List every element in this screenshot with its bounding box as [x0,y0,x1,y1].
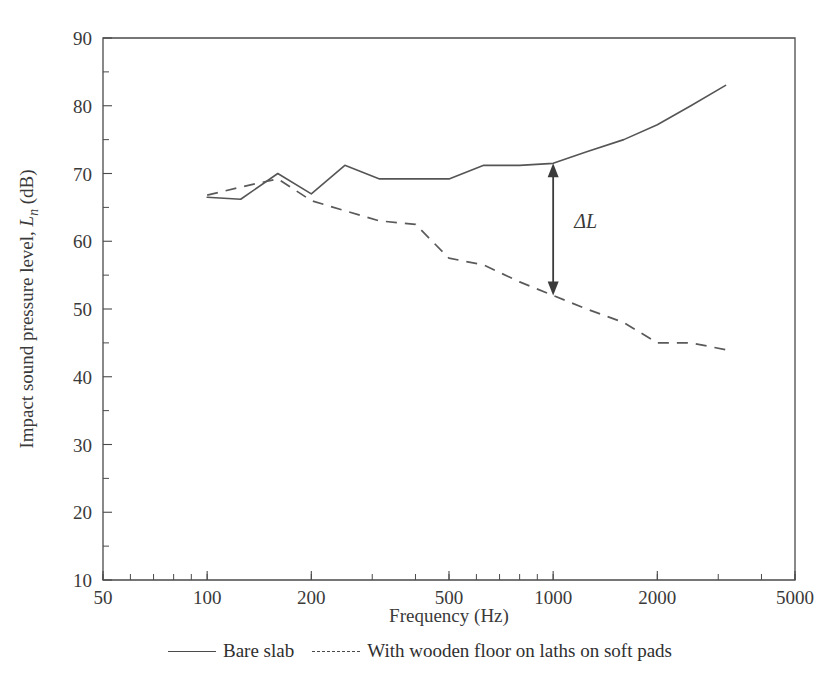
y-tick-label: 60 [73,231,92,252]
legend-item-wooden-floor: With wooden floor on laths on soft pads [312,640,672,662]
y-tick-label: 20 [73,502,92,523]
y-axis-tick-labels: 102030405060708090 [73,28,92,591]
series-line-wooden-floor [207,179,725,350]
y-tick-label: 30 [73,435,92,456]
x-tick-label: 1000 [534,587,572,608]
y-tick-label: 50 [73,299,92,320]
delta-l-arrowhead-up-icon [548,163,559,177]
legend-label-wooden-floor: With wooden floor on laths on soft pads [367,640,672,662]
x-axis-ticks [103,571,795,580]
y-tick-label: 70 [73,164,92,185]
delta-l-label: ΔL [573,210,597,232]
x-axis-title: Frequency (Hz) [389,605,509,627]
chart-svg: 102030405060708090 501002005001000200050… [0,0,840,684]
x-tick-label: 2000 [638,587,676,608]
series-group [207,85,725,349]
x-tick-label: 200 [297,587,326,608]
legend-label-bare-slab: Bare slab [223,640,294,662]
x-tick-label: 100 [193,587,222,608]
x-tick-label: 50 [94,587,113,608]
delta-l-arrowhead-down-icon [548,281,559,295]
y-tick-label: 90 [73,28,92,49]
legend-swatch-solid-icon [168,651,216,652]
y-tick-label: 80 [73,96,92,117]
axes-frame [103,38,795,580]
x-tick-label: 5000 [776,587,814,608]
legend-item-bare-slab: Bare slab [168,640,294,662]
y-axis-ticks [103,38,112,580]
series-line-bare-slab [207,85,725,199]
y-axis-title: Impact sound pressure level, Ln (dB) [16,169,41,448]
figure-container: 102030405060708090 501002005001000200050… [0,0,840,684]
y-tick-label: 40 [73,367,92,388]
delta-l-annotation: ΔL [548,163,597,295]
y-tick-label: 10 [73,570,92,591]
legend-swatch-dashed-icon [312,651,360,652]
chart-legend: Bare slab With wooden floor on laths on … [0,640,840,662]
